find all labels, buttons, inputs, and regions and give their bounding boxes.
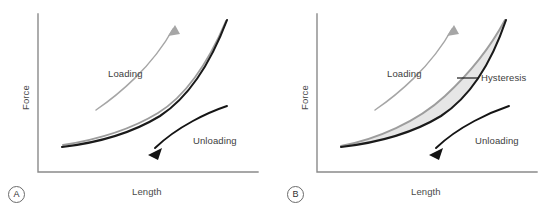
loading-curve-a <box>63 21 226 145</box>
axes-a <box>38 14 258 172</box>
x-axis-label-b: Length <box>411 186 441 197</box>
hysteresis-region-b <box>341 20 506 147</box>
y-axis-label-a: Force <box>20 85 31 110</box>
panel-a-plot <box>0 0 279 210</box>
loading-arrowhead-a <box>168 25 180 36</box>
unloading-curve-b <box>341 20 506 147</box>
unloading-label-a: Unloading <box>193 135 237 146</box>
loading-label-b: Loading <box>387 68 422 79</box>
panel-b: Loading Unloading Hysteresis Force Lengt… <box>279 0 558 210</box>
loading-label-a: Loading <box>108 68 143 79</box>
unloading-label-b: Unloading <box>475 135 519 146</box>
panel-a: Loading Unloading Force Length A <box>0 0 279 210</box>
x-axis-label-a: Length <box>132 186 162 197</box>
panel-marker-a: A <box>8 186 25 203</box>
unloading-curve-a <box>62 20 227 147</box>
loading-curve-b <box>341 20 505 146</box>
y-axis-label-b: Force <box>299 85 310 110</box>
hysteresis-figure: Loading Unloading Force Length A Load <box>0 0 558 210</box>
panel-b-plot <box>279 0 558 210</box>
loading-arrowhead-b <box>447 25 459 36</box>
axes-b <box>317 14 537 172</box>
unloading-arrowhead-a <box>148 148 162 160</box>
hysteresis-label-b: Hysteresis <box>481 72 526 83</box>
panel-marker-b: B <box>287 186 304 203</box>
unloading-arrowhead-b <box>429 148 443 160</box>
